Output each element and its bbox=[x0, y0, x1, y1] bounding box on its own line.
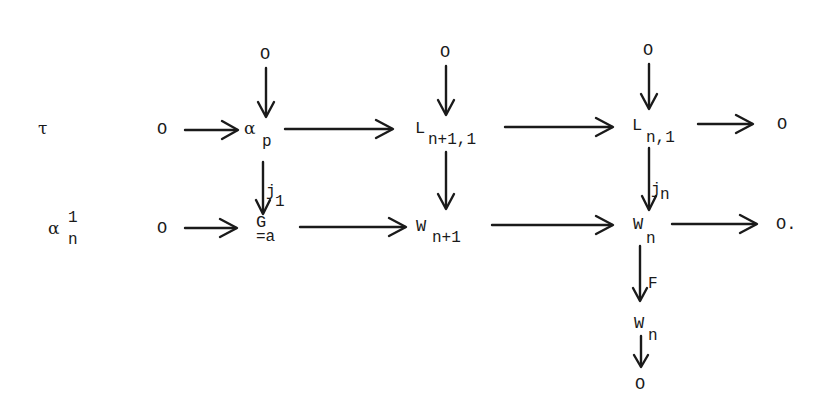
row-label-alpha-sub: n bbox=[68, 232, 78, 248]
arrows-layer bbox=[0, 0, 828, 413]
node-W-n1: W bbox=[416, 218, 426, 235]
arrow-label-jn-sub: n bbox=[660, 187, 670, 203]
node-alpha-p: α bbox=[244, 120, 255, 137]
arrow-F bbox=[633, 246, 647, 301]
node-zero-above-L-n: O bbox=[643, 42, 653, 59]
arrow-0-to-L-n-vertical bbox=[641, 64, 657, 109]
arrow-G-to-W-n1 bbox=[300, 218, 406, 236]
arrow-0-to-alpha-p bbox=[185, 121, 238, 139]
node-L-n1-1-sub: n+1,1 bbox=[428, 132, 476, 148]
arrow-L-n-to-0 bbox=[698, 115, 753, 133]
node-alpha-p-sub: p bbox=[262, 134, 272, 150]
arrow-jn bbox=[642, 148, 656, 210]
arrow-L-n1-to-L-n bbox=[505, 118, 613, 136]
node-zero-bottom: O bbox=[635, 376, 645, 393]
row-label-alpha: α bbox=[48, 220, 59, 237]
node-zero-bottom-left: O bbox=[157, 220, 167, 237]
node-G-sub: =a bbox=[256, 229, 275, 245]
node-L-n-1: L bbox=[632, 117, 642, 134]
commutative-diagram: τ α 1 n O O O O α p L n+1,1 L n,1 O j 1 … bbox=[0, 0, 828, 413]
arrow-W-n-to-0-vertical bbox=[634, 336, 648, 367]
arrow-0-to-G bbox=[185, 219, 237, 237]
node-L-n1-1: L bbox=[415, 120, 425, 137]
arrow-W-n1-to-W-n bbox=[492, 216, 613, 234]
node-L-n-1-sub: n,1 bbox=[646, 130, 675, 146]
row-label-alpha-sup: 1 bbox=[68, 210, 78, 226]
node-zero-top-right: O bbox=[777, 116, 787, 133]
node-zero-above-L-n1: O bbox=[440, 44, 450, 61]
arrow-label-F: F bbox=[648, 276, 658, 292]
node-zero-above-alpha: O bbox=[260, 46, 270, 63]
arrow-alpha-p-to-L-n1 bbox=[285, 120, 393, 138]
node-W-n-sub: n bbox=[646, 231, 656, 247]
arrow-0-to-alpha-p-vertical bbox=[258, 68, 274, 117]
node-zero-top-left: O bbox=[157, 121, 167, 138]
node-W-n: W bbox=[633, 216, 643, 233]
node-W-n1-sub: n+1 bbox=[432, 230, 461, 246]
node-zero-bottom-right: O. bbox=[776, 216, 796, 233]
arrow-L-n1-to-W-n1 bbox=[438, 152, 454, 209]
arrow-label-j1-sub: 1 bbox=[275, 194, 285, 210]
row-label-tau: τ bbox=[38, 120, 47, 137]
arrow-W-n-to-0 bbox=[672, 215, 757, 233]
node-W-n-lower-sub: n bbox=[648, 328, 658, 344]
arrow-0-to-L-n1-vertical bbox=[438, 66, 454, 115]
node-W-n-lower: W bbox=[634, 315, 644, 332]
